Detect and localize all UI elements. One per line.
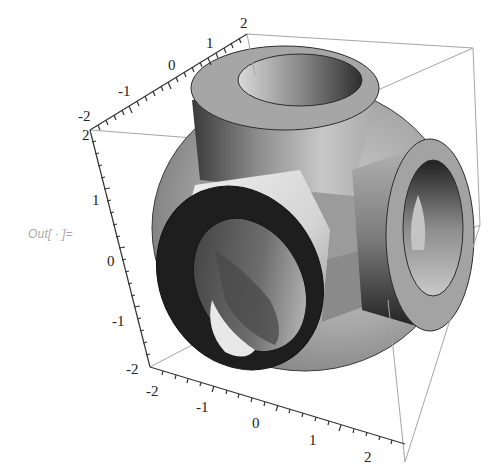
tick-label: -2	[126, 361, 139, 377]
tick-label: -1	[112, 313, 125, 329]
axis-bottom	[150, 367, 405, 444]
tick-label: -2	[146, 383, 159, 399]
tick-label: 2	[82, 127, 90, 143]
tick-label: 0	[252, 415, 260, 431]
tick-label: 1	[309, 432, 317, 448]
tick-label: 0	[168, 57, 176, 73]
axis-left	[90, 130, 150, 367]
3d-plot[interactable]: -2 -1 0 1 2 2 1 0 -1 -2	[0, 0, 489, 472]
tick-label: 0	[107, 253, 115, 269]
tick-label: -2	[78, 108, 91, 124]
tick-label: 2	[240, 15, 248, 31]
solid-body	[125, 46, 474, 399]
tick-label: 1	[206, 35, 214, 51]
tick-label: -1	[118, 83, 131, 99]
axis-left-labels: 2 1 0 -1 -2	[82, 127, 139, 377]
tick-label: 2	[364, 449, 372, 465]
tick-label: 1	[92, 192, 100, 208]
tick-label: -1	[196, 399, 209, 415]
